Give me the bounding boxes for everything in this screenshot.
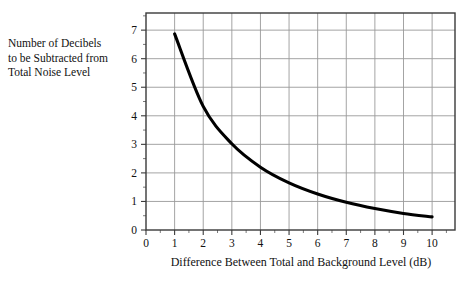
plot-frame: [146, 13, 455, 230]
x-tick-label: 10: [426, 237, 438, 249]
gridline-group: [146, 13, 455, 230]
x-tick-label: 6: [315, 237, 321, 249]
x-tick-label: 9: [401, 237, 407, 249]
y-tick-label: 7: [131, 24, 137, 36]
x-tick-label: 1: [172, 237, 178, 249]
x-tick-label-group: 012345678910: [143, 237, 438, 249]
minor-tick-group: [143, 16, 446, 233]
x-tick-label: 8: [372, 237, 378, 249]
x-tick-label: 0: [143, 237, 149, 249]
x-tick-label: 7: [343, 237, 349, 249]
y-tick-label: 5: [131, 81, 137, 93]
chart-figure: Number of Decibels to be Subtracted from…: [0, 0, 463, 282]
x-axis-label: Difference Between Total and Background …: [145, 255, 457, 270]
y-axis-label-line-1: Number of Decibels: [8, 36, 138, 51]
y-axis-label-line-2: to be Subtracted from: [8, 51, 138, 66]
y-tick-label: 3: [131, 138, 137, 150]
x-tick-label: 2: [200, 237, 206, 249]
y-tick-label: 1: [131, 195, 137, 207]
y-axis-label: Number of Decibels to be Subtracted from…: [8, 36, 138, 80]
x-tick-label: 5: [286, 237, 292, 249]
x-tick-label: 4: [258, 237, 264, 249]
y-tick-label: 0: [131, 224, 137, 236]
y-axis-label-line-3: Total Noise Level: [8, 65, 138, 80]
y-tick-label: 2: [131, 167, 137, 179]
x-tick-label: 3: [229, 237, 235, 249]
data-series-line: [175, 34, 433, 217]
y-tick-label: 4: [131, 110, 137, 122]
